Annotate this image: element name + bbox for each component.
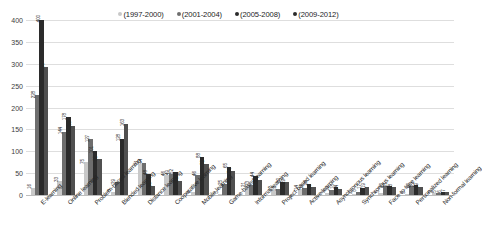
bar-group: 16228400292 — [26, 20, 53, 195]
bar-value-label: 16 — [28, 185, 33, 190]
bar-value-label: 19 — [362, 183, 367, 188]
bar-value-label: 82 — [95, 156, 100, 161]
x-axis-label-cell: Face-to-face learning — [374, 196, 401, 248]
bar-group: 71744821 — [133, 20, 160, 195]
x-axis-label-cell: Game-based learning — [213, 196, 240, 248]
bars-layer: 1622840029233144178158751271018282912816… — [26, 20, 454, 195]
bar-value-label: 18 — [389, 184, 394, 189]
x-axis-label-cell: Problem-based learning — [80, 196, 107, 248]
bar-value-label: 54 — [229, 168, 234, 173]
bar-value-label: 72 — [202, 160, 207, 165]
bar-group: 12133029 — [267, 20, 294, 195]
bar[interactable]: 163 — [124, 124, 128, 195]
bar-value-label: 101 — [90, 146, 95, 153]
y-axis-tick: 100 — [11, 148, 23, 155]
bar-value-label: 128 — [117, 134, 122, 141]
y-axis-tick: 350 — [11, 38, 23, 45]
legend-label: (1997-2000) — [123, 10, 163, 19]
x-axis-label-cell: Non-formal learning — [427, 196, 454, 248]
x-axis-label-cell: Asynchronous learning — [320, 196, 347, 248]
legend-item-2005-2008[interactable]: (2005-2008) — [235, 10, 280, 19]
bar[interactable]: 158 — [71, 126, 75, 195]
y-axis-tick: 200 — [11, 104, 23, 111]
bar-value-label: 228 — [33, 91, 38, 98]
y-axis-tick: 300 — [11, 60, 23, 67]
bar-value-label: 178 — [64, 113, 69, 120]
y-axis-tick: 250 — [11, 82, 23, 89]
x-axis-label-cell: Blended learning — [106, 196, 133, 248]
bar-group: 5121814 — [320, 20, 347, 195]
legend-swatch-icon — [118, 12, 122, 16]
bar-value-label: 14 — [336, 186, 341, 191]
bar-value-label: 7 — [443, 190, 448, 192]
x-axis-label-cell: Synchronous learning — [347, 196, 374, 248]
legend-label: (2009-2012) — [298, 10, 338, 19]
bar-group: 7512710182 — [80, 20, 107, 195]
y-axis-tick: 150 — [11, 126, 23, 133]
legend-item-2001-2004[interactable]: (2001-2004) — [177, 10, 222, 19]
y-axis-tick: 50 — [15, 170, 23, 177]
legend-swatch-icon — [177, 12, 181, 16]
y-axis: 400350300250200150100500 — [0, 20, 26, 195]
bar-value-label: 400 — [37, 15, 42, 22]
bar-group: 33144178158 — [53, 20, 80, 195]
x-axis-label-cell: Online learning — [53, 196, 80, 248]
x-axis-label-cell: Mobile learning — [187, 196, 214, 248]
legend-swatch-icon — [293, 12, 297, 16]
x-axis-label-cell: E-learning — [26, 196, 53, 248]
y-axis-tick: 0 — [19, 192, 23, 199]
x-axis-label-cell: Project-based learning — [267, 196, 294, 248]
bar-group: 3256554 — [213, 20, 240, 195]
bar-value-label: 127 — [86, 135, 91, 142]
bar-value-label: 21 — [148, 182, 153, 187]
x-axis-labels: E-learningOnline learningProblem-based l… — [26, 196, 454, 248]
legend-label: (2005-2008) — [240, 10, 280, 19]
bar-group: 46495233 — [160, 20, 187, 195]
bar-value-label: 163 — [122, 119, 127, 126]
x-axis-label-cell: Personalized learning — [401, 196, 428, 248]
legend-item-1997-2000[interactable]: (1997-2000) — [118, 10, 163, 19]
legend-item-2009-2012[interactable]: (2009-2012) — [293, 10, 338, 19]
bar-value-label: 292 — [41, 63, 46, 70]
legend-label: (2001-2004) — [182, 10, 222, 19]
bar-value-label: 18 — [309, 184, 314, 189]
bar-value-label: 75 — [82, 159, 87, 164]
x-axis-label-cell: Active learning — [294, 196, 321, 248]
chart-legend: (1997-2000) (2001-2004) (2005-2008) (200… — [0, 7, 457, 21]
bar-value-label: 88 — [197, 153, 202, 158]
legend-swatch-icon — [235, 12, 239, 16]
x-axis-label-cell: Informal learning — [240, 196, 267, 248]
bar-value-label: 144 — [59, 127, 64, 134]
bar-value-label: 19 — [416, 183, 421, 188]
bar-value-label: 158 — [68, 121, 73, 128]
x-axis-label-cell: Cooperative learning — [160, 196, 187, 248]
y-axis-tick: 400 — [11, 17, 23, 24]
x-axis-label-cell: Distance learning — [133, 196, 160, 248]
plot-area: 400350300250200150100500 162284002923314… — [0, 20, 457, 248]
bar[interactable]: 292 — [44, 67, 48, 195]
